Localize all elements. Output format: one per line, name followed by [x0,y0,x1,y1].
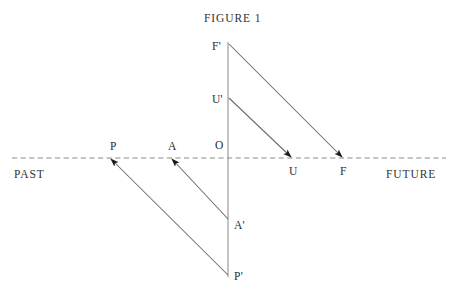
axis-label-past: PAST [14,169,45,181]
arrow-f-prime-to-f [229,44,342,157]
point-label-f: F [340,166,347,178]
arrow-p-prime-to-p [111,159,228,275]
point-label-a-prime: A' [234,220,245,232]
point-label-u-prime: U' [212,94,223,106]
point-label-f-prime: F' [212,41,221,53]
point-label-origin: O [215,140,224,152]
arrow-u-prime-to-u [229,98,291,157]
figure-diagram: FIGURE 1 F' U' O P A U F A' P' PAST FUTU… [0,0,459,292]
point-label-p-prime: P' [234,271,243,283]
figure-title: FIGURE 1 [204,13,261,25]
point-label-u: U [289,166,298,178]
arrow-a-prime-to-a [172,159,228,219]
axis-label-future: FUTURE [386,169,436,181]
figure-canvas [0,0,459,292]
point-label-p: P [110,141,117,153]
point-label-a: A [168,141,177,153]
